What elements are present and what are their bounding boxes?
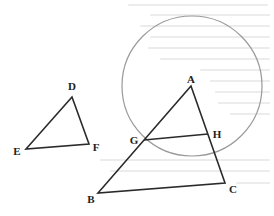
geometry-figure: D E F A B C G H: [0, 0, 274, 216]
label-g: G: [130, 134, 139, 146]
segment-gh: [144, 134, 208, 140]
triangle-def: [26, 97, 89, 149]
label-e: E: [13, 145, 20, 157]
label-h: H: [213, 128, 222, 140]
label-b: B: [87, 193, 95, 205]
diagram-canvas: D E F A B C G H: [0, 0, 274, 216]
label-d: D: [68, 80, 76, 92]
label-f: F: [93, 141, 100, 153]
label-c: C: [229, 183, 237, 195]
label-a: A: [187, 73, 195, 85]
triangle-abc: [98, 86, 225, 193]
